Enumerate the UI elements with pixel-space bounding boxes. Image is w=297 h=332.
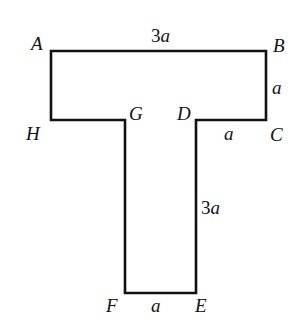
vertex-label-a: A bbox=[29, 33, 43, 54]
dimension-ab: 3a bbox=[151, 25, 170, 46]
vertex-label-g: G bbox=[129, 103, 143, 124]
dimension-dc: a bbox=[224, 123, 234, 144]
vertex-label-e: E bbox=[194, 295, 207, 316]
t-shape-outline bbox=[51, 51, 266, 293]
vertex-label-d: D bbox=[176, 103, 191, 124]
dimension-fe: a bbox=[151, 295, 161, 316]
dimension-de: 3a bbox=[201, 197, 220, 218]
vertex-label-h: H bbox=[25, 123, 41, 144]
vertex-label-c: C bbox=[270, 124, 283, 145]
vertex-label-b: B bbox=[273, 35, 285, 56]
t-shape-diagram: A B C D E F G H 3a a a 3a a bbox=[0, 0, 297, 332]
vertex-label-f: F bbox=[105, 295, 118, 316]
dimension-bc: a bbox=[272, 77, 282, 98]
